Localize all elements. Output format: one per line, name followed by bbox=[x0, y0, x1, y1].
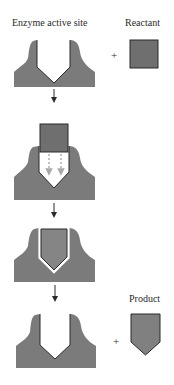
enzyme-stage-1 bbox=[14, 40, 95, 87]
enzyme-mechanism-diagram bbox=[0, 0, 174, 385]
enzyme-stage-4 bbox=[16, 314, 96, 368]
enzyme-stage-3 bbox=[14, 228, 95, 282]
product-pentagon bbox=[131, 314, 160, 355]
reactant-approaching bbox=[40, 124, 68, 152]
reactant-square bbox=[130, 40, 158, 68]
enzyme-stage-2 bbox=[14, 146, 95, 200]
